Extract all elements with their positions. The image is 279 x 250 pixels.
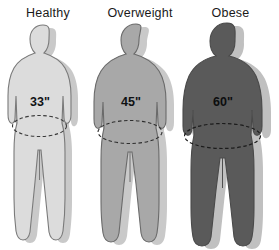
figure-silhouette-healthy	[0, 22, 96, 250]
waist-measurement-healthy: 33"	[0, 95, 80, 109]
figure-label-overweight: Overweight	[90, 6, 190, 20]
waist-size-infographic: Healthy 33" Overweight	[0, 0, 279, 250]
figure-silhouette-obese	[182, 22, 279, 250]
figure-silhouette-overweight	[90, 22, 190, 250]
figure-label-obese: Obese	[182, 6, 279, 20]
figure-group-obese: Obese 60"	[182, 0, 279, 250]
figure-group-overweight: Overweight 45"	[90, 0, 190, 250]
waist-measurement-overweight: 45"	[90, 95, 172, 109]
waist-measurement-obese: 60"	[182, 95, 264, 109]
figure-group-healthy: Healthy 33"	[0, 0, 96, 250]
figure-body-overweight	[94, 24, 166, 242]
figure-label-healthy: Healthy	[0, 6, 96, 20]
